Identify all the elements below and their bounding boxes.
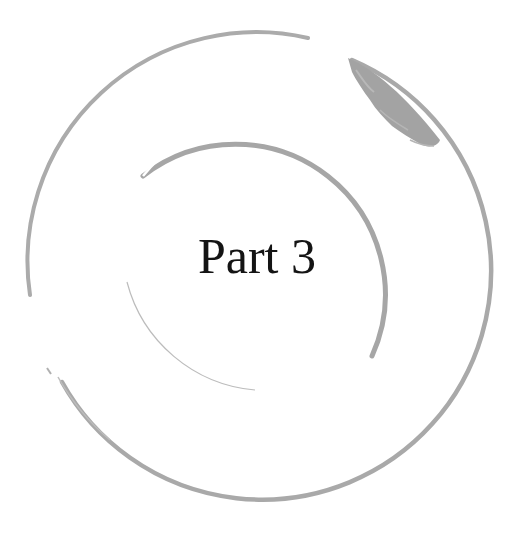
outer-arc-gap-mark xyxy=(47,368,51,374)
inner-faint-arc xyxy=(127,282,255,390)
page-title: Part 3 xyxy=(0,226,514,286)
part-title-page: Part 3 xyxy=(0,0,514,542)
brush-blob xyxy=(348,58,440,146)
